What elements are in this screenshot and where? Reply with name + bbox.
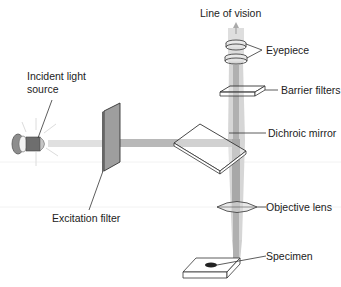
- label-barrier-filters: Barrier filters: [281, 84, 341, 96]
- label-dichroic-mirror: Dichroic mirror: [268, 127, 337, 139]
- fluorescence-microscope-diagram: Line of vision Eyepiece Barrier filters …: [0, 0, 341, 287]
- label-specimen: Specimen: [266, 250, 313, 262]
- label-incident-light-line1: Incident light: [27, 70, 86, 82]
- label-incident-light-line2: source: [27, 83, 59, 95]
- objective-lens-icon: [217, 202, 257, 213]
- specimen-slide-icon: [183, 258, 240, 278]
- barrier-filter-icon: [220, 86, 265, 96]
- label-excitation-filter: Excitation filter: [52, 212, 121, 224]
- label-eyepiece: Eyepiece: [266, 44, 309, 56]
- label-objective-lens: Objective lens: [266, 201, 332, 213]
- label-line-of-vision: Line of vision: [200, 7, 261, 19]
- excitation-filter-icon: [102, 103, 120, 172]
